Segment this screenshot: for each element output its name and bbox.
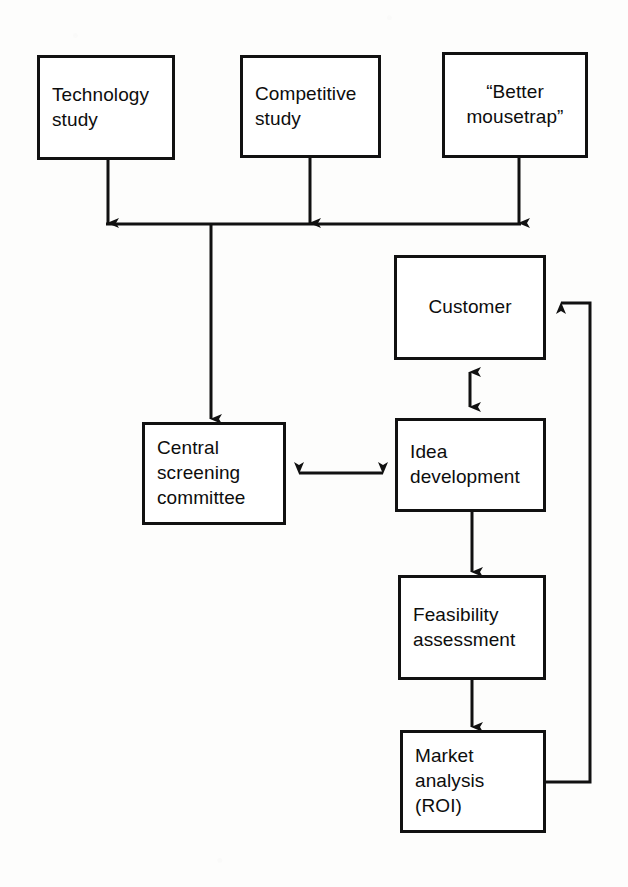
node-market-analysis-label: Market analysis (ROI) xyxy=(415,744,484,818)
node-idea-development-label: Idea development xyxy=(410,440,520,489)
node-competitive-study-label: Competitive study xyxy=(255,82,356,131)
node-feasibility-assessment[interactable]: Feasibility assessment xyxy=(398,575,546,680)
node-customer-label: Customer xyxy=(428,295,511,320)
node-competitive-study[interactable]: Competitive study xyxy=(240,55,381,158)
flowchart-diagram: Technology study Competitive study “Bett… xyxy=(0,0,628,887)
node-idea-development[interactable]: Idea development xyxy=(395,418,546,512)
node-market-analysis[interactable]: Market analysis (ROI) xyxy=(400,730,546,833)
node-technology-study[interactable]: Technology study xyxy=(37,55,175,160)
node-technology-study-label: Technology study xyxy=(52,83,149,132)
node-better-mousetrap-label: “Better mousetrap” xyxy=(466,80,563,129)
node-central-screening-committee[interactable]: Central screening committee xyxy=(142,422,286,525)
node-central-screening-committee-label: Central screening committee xyxy=(157,436,246,510)
node-better-mousetrap[interactable]: “Better mousetrap” xyxy=(442,52,588,158)
node-feasibility-assessment-label: Feasibility assessment xyxy=(413,603,515,652)
edge-market-analysis-to-customer-feedback xyxy=(546,303,590,782)
node-customer[interactable]: Customer xyxy=(394,255,546,360)
